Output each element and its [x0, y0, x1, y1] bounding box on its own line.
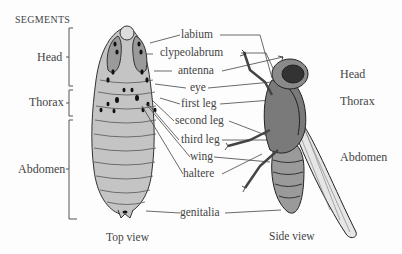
- segment-label-head-right: Head: [340, 68, 365, 81]
- segment-label-head-left: Head: [37, 51, 62, 64]
- part-label-haltere: haltere: [183, 167, 214, 180]
- part-label-eye: eye: [190, 81, 206, 94]
- part-label-first-leg: first leg: [181, 97, 216, 110]
- part-label-genitalia: genitalia: [180, 206, 220, 219]
- part-label-clypeolabrum: clypeolabrum: [160, 46, 223, 59]
- part-label-labium: labium: [181, 28, 213, 41]
- segment-label-thorax-right: Thorax: [340, 95, 375, 108]
- part-label-antenna: antenna: [178, 64, 214, 77]
- segments-title: SEGMENTS: [15, 13, 70, 26]
- segment-label-abdomen-left: Abdomen: [18, 163, 65, 176]
- caption-top-view: Top view: [106, 231, 149, 244]
- part-label-wing: wing: [190, 150, 213, 163]
- segment-label-abdomen-right: Abdomen: [340, 151, 387, 164]
- segment-brackets-left: [66, 28, 77, 219]
- part-label-third-leg: third leg: [181, 133, 220, 146]
- segment-label-thorax-left: Thorax: [29, 96, 64, 109]
- side-view-fly: [225, 50, 356, 238]
- caption-side-view: Side view: [269, 230, 315, 243]
- top-view-body: [92, 26, 157, 218]
- part-label-second-leg: second leg: [175, 114, 224, 127]
